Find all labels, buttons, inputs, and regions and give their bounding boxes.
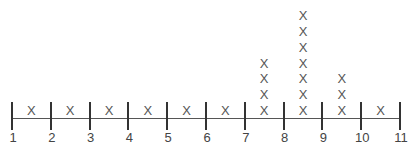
tick-mark: [166, 102, 168, 130]
x-marker: X: [337, 72, 346, 85]
x-marker: X: [299, 88, 308, 101]
line-plot: 1234567891011 XXXXXXXXXXXXXXXXXXXXX: [0, 0, 415, 150]
x-marker: X: [299, 40, 308, 53]
x-marker: X: [66, 104, 75, 117]
x-marker: X: [260, 72, 269, 85]
x-marker: X: [182, 104, 191, 117]
tick-mark: [50, 102, 52, 130]
x-marker: X: [299, 9, 308, 22]
tick-label: 11: [394, 131, 408, 145]
tick-label: 10: [355, 131, 369, 145]
tick-label: 9: [320, 131, 327, 145]
x-marker: X: [376, 104, 385, 117]
x-marker: X: [299, 25, 308, 38]
tick-mark: [360, 102, 362, 130]
tick-label: 8: [281, 131, 288, 145]
tick-mark: [244, 102, 246, 130]
tick-mark: [89, 102, 91, 130]
tick-mark: [321, 102, 323, 130]
tick-mark: [11, 102, 13, 130]
x-marker: X: [260, 104, 269, 117]
tick-label: 7: [242, 131, 249, 145]
x-marker: X: [27, 104, 36, 117]
tick-label: 2: [48, 131, 55, 145]
x-marker: X: [299, 72, 308, 85]
x-marker: X: [337, 88, 346, 101]
tick-mark: [399, 102, 401, 130]
tick-label: 4: [126, 131, 133, 145]
x-marker: X: [105, 104, 114, 117]
tick-label: 1: [9, 131, 16, 145]
x-marker: X: [221, 104, 230, 117]
tick-label: 3: [87, 131, 94, 145]
tick-label: 5: [165, 131, 172, 145]
x-marker: X: [143, 104, 152, 117]
tick-mark: [205, 102, 207, 130]
tick-label: 6: [203, 131, 210, 145]
x-marker: X: [260, 88, 269, 101]
tick-mark: [127, 102, 129, 130]
tick-mark: [283, 102, 285, 130]
x-marker: X: [337, 104, 346, 117]
x-marker: X: [299, 56, 308, 69]
x-marker: X: [260, 56, 269, 69]
x-marker: X: [299, 104, 308, 117]
